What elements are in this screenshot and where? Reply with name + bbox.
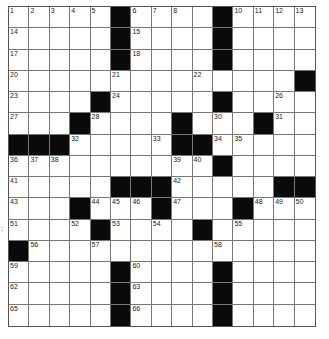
grid-cell[interactable]: 30 xyxy=(213,113,233,134)
grid-cell[interactable]: 63 xyxy=(131,283,151,304)
grid-cell[interactable] xyxy=(172,262,192,283)
grid-cell[interactable] xyxy=(91,71,111,92)
grid-cell[interactable] xyxy=(274,135,294,156)
grid-cell[interactable]: 65 xyxy=(9,305,29,326)
grid-cell[interactable] xyxy=(29,71,49,92)
grid-cell[interactable] xyxy=(172,220,192,241)
grid-cell[interactable] xyxy=(152,283,172,304)
grid-cell[interactable] xyxy=(152,262,172,283)
grid-cell[interactable] xyxy=(70,283,90,304)
grid-cell[interactable] xyxy=(29,262,49,283)
grid-cell[interactable]: 1 xyxy=(9,7,29,28)
grid-cell[interactable] xyxy=(70,92,90,113)
grid-cell[interactable] xyxy=(233,113,253,134)
grid-cell[interactable] xyxy=(233,71,253,92)
grid-cell[interactable] xyxy=(91,262,111,283)
grid-cell[interactable] xyxy=(111,135,131,156)
grid-cell[interactable] xyxy=(254,283,274,304)
grid-cell[interactable] xyxy=(50,262,70,283)
grid-cell[interactable]: 32 xyxy=(70,135,90,156)
grid-cell[interactable] xyxy=(274,71,294,92)
grid-cell[interactable] xyxy=(274,50,294,71)
grid-cell[interactable] xyxy=(193,198,213,219)
grid-cell[interactable]: 10 xyxy=(233,7,253,28)
grid-cell[interactable] xyxy=(254,28,274,49)
grid-cell[interactable]: 66 xyxy=(131,305,151,326)
grid-cell[interactable] xyxy=(254,220,274,241)
grid-cell[interactable] xyxy=(295,156,315,177)
grid-cell[interactable]: 50 xyxy=(295,198,315,219)
grid-cell[interactable] xyxy=(193,283,213,304)
grid-cell[interactable]: 20 xyxy=(9,71,29,92)
grid-cell[interactable]: 49 xyxy=(274,198,294,219)
grid-cell[interactable]: 43 xyxy=(9,198,29,219)
grid-cell[interactable] xyxy=(213,220,233,241)
grid-cell[interactable]: 57 xyxy=(91,241,111,262)
grid-cell[interactable] xyxy=(254,305,274,326)
grid-cell[interactable] xyxy=(193,92,213,113)
grid-cell[interactable]: 28 xyxy=(91,113,111,134)
grid-cell[interactable] xyxy=(50,241,70,262)
grid-cell[interactable] xyxy=(254,156,274,177)
grid-cell[interactable] xyxy=(70,241,90,262)
grid-cell[interactable] xyxy=(193,262,213,283)
grid-cell[interactable] xyxy=(295,262,315,283)
grid-cell[interactable]: 6 xyxy=(131,7,151,28)
grid-cell[interactable] xyxy=(152,241,172,262)
grid-cell[interactable] xyxy=(193,177,213,198)
grid-cell[interactable]: 40 xyxy=(193,156,213,177)
grid-cell[interactable] xyxy=(152,71,172,92)
grid-cell[interactable] xyxy=(274,156,294,177)
grid-cell[interactable] xyxy=(213,198,233,219)
grid-cell[interactable] xyxy=(213,177,233,198)
grid-cell[interactable] xyxy=(295,135,315,156)
grid-cell[interactable] xyxy=(295,283,315,304)
grid-cell[interactable]: 18 xyxy=(131,50,151,71)
grid-cell[interactable] xyxy=(233,177,253,198)
grid-cell[interactable] xyxy=(172,241,192,262)
grid-cell[interactable] xyxy=(274,241,294,262)
grid-cell[interactable] xyxy=(29,50,49,71)
grid-cell[interactable] xyxy=(233,50,253,71)
grid-cell[interactable]: 8 xyxy=(172,7,192,28)
grid-cell[interactable] xyxy=(274,220,294,241)
grid-cell[interactable] xyxy=(29,92,49,113)
grid-cell[interactable] xyxy=(213,71,233,92)
grid-cell[interactable]: 51 xyxy=(9,220,29,241)
grid-cell[interactable]: 27 xyxy=(9,113,29,134)
grid-cell[interactable] xyxy=(91,28,111,49)
grid-cell[interactable] xyxy=(254,50,274,71)
grid-cell[interactable] xyxy=(29,305,49,326)
grid-cell[interactable] xyxy=(131,92,151,113)
grid-cell[interactable] xyxy=(70,28,90,49)
grid-cell[interactable]: 14 xyxy=(9,28,29,49)
grid-cell[interactable] xyxy=(233,28,253,49)
grid-cell[interactable]: 62 xyxy=(9,283,29,304)
grid-cell[interactable] xyxy=(233,262,253,283)
grid-cell[interactable] xyxy=(295,241,315,262)
grid-cell[interactable] xyxy=(295,92,315,113)
grid-cell[interactable] xyxy=(152,50,172,71)
grid-cell[interactable] xyxy=(131,156,151,177)
grid-cell[interactable]: 53 xyxy=(111,220,131,241)
grid-cell[interactable]: 52 xyxy=(70,220,90,241)
grid-cell[interactable]: 41 xyxy=(9,177,29,198)
grid-cell[interactable] xyxy=(70,305,90,326)
grid-cell[interactable]: 5 xyxy=(91,7,111,28)
grid-cell[interactable] xyxy=(50,220,70,241)
grid-cell[interactable] xyxy=(111,156,131,177)
grid-cell[interactable]: 26 xyxy=(274,92,294,113)
grid-cell[interactable]: 47 xyxy=(172,198,192,219)
grid-cell[interactable] xyxy=(50,28,70,49)
grid-cell[interactable] xyxy=(70,156,90,177)
grid-cell[interactable] xyxy=(233,241,253,262)
grid-cell[interactable] xyxy=(295,50,315,71)
grid-cell[interactable]: 38 xyxy=(50,156,70,177)
grid-cell[interactable] xyxy=(70,50,90,71)
grid-cell[interactable] xyxy=(152,92,172,113)
grid-cell[interactable]: 35 xyxy=(233,135,253,156)
grid-cell[interactable]: 39 xyxy=(172,156,192,177)
grid-cell[interactable] xyxy=(172,50,192,71)
grid-cell[interactable] xyxy=(193,305,213,326)
grid-cell[interactable] xyxy=(131,220,151,241)
